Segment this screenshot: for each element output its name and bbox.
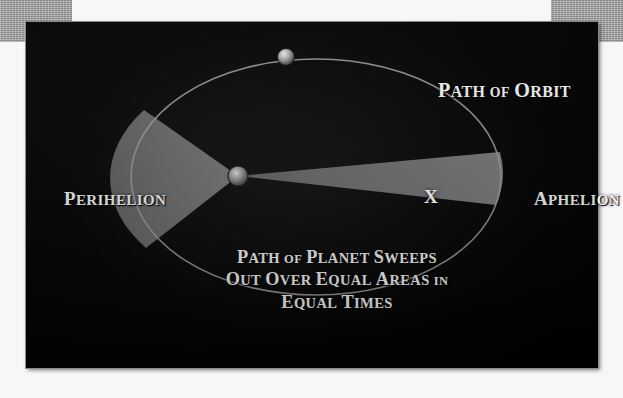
label-sector-marker-x: X [424,187,438,207]
caption-line-2: OUT OVER EQUAL AREAS IN Out Over Equal A… [212,268,462,290]
aphelion-sector [238,152,503,205]
perihelion-sector [110,110,238,248]
caption-line-3: EQUAL TIMES Equal Times [212,291,462,313]
label-perihelion: PERIHELIONPerihelion [64,189,166,209]
label-path-of-orbit: PPath of OrbitATH OF ORBIT [438,80,571,101]
screenshot-stage: PPath of OrbitATH OF ORBIT PERIHELIONPer… [0,0,623,398]
label-aphelion: APHELIONAphelion [534,189,620,209]
caption-line-1: PATH OF PLANET SWEEPS Path of Planet Swe… [212,246,462,268]
diagram-caption: PATH OF PLANET SWEEPS Path of Planet Swe… [212,246,462,313]
diagram-board: PPath of OrbitATH OF ORBIT PERIHELIONPer… [26,22,598,368]
